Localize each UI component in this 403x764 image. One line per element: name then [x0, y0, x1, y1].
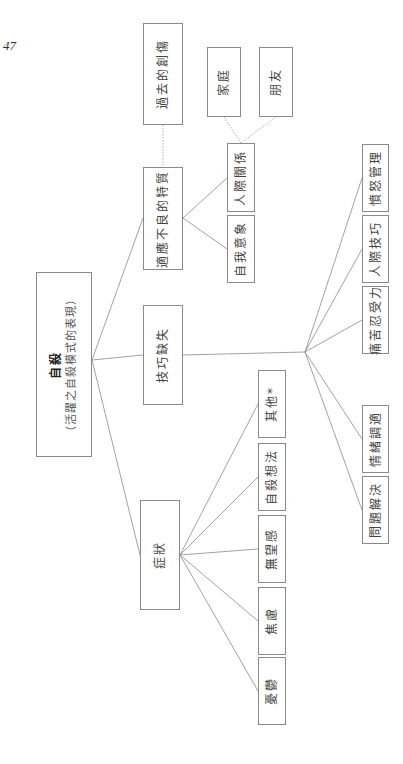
node-label: 症狀	[152, 541, 168, 569]
node-self-image: 自我意象	[227, 215, 255, 283]
root-node-suicide: 自殺 （活躍之自殺模式的表現）	[36, 272, 92, 457]
node-label: 憤怒管理	[368, 150, 384, 206]
node-friends: 朋友	[259, 47, 293, 117]
root-title: 自殺	[48, 293, 64, 437]
node-label: 家庭	[216, 68, 232, 96]
node-label: 適應不良的特質	[155, 170, 171, 268]
node-skill-distress-tolerance: 痛苦忍受力	[362, 286, 389, 354]
node-symptom-hopelessness: 無望感	[258, 515, 286, 583]
node-label: 過去的創傷	[155, 39, 171, 109]
node-label: 朋友	[268, 68, 284, 96]
node-label: 痛苦忍受力	[368, 285, 384, 355]
node-label: 人際技巧	[368, 221, 384, 277]
node-skill-deficits: 技巧缺失	[143, 305, 183, 405]
node-label: 焦慮	[264, 607, 280, 635]
node-symptom-anxiety: 焦慮	[258, 587, 286, 655]
node-symptom-other: 其他*	[258, 370, 286, 438]
node-skill-emotion-regulation: 情緒調適	[362, 405, 389, 473]
node-interpersonal-relations: 人際關係	[227, 143, 255, 212]
node-skill-anger-management: 憤怒管理	[362, 144, 389, 212]
node-past-trauma: 過去的創傷	[143, 23, 183, 125]
node-label: 技巧缺失	[155, 327, 171, 383]
node-label: 情緒調適	[368, 411, 384, 467]
node-label: 人際關係	[233, 150, 249, 206]
node-maladaptive-traits: 適應不良的特質	[143, 167, 183, 270]
node-skill-problem-solving: 問題解決	[362, 476, 389, 544]
node-label: 憂鬱	[264, 677, 280, 705]
root-subtitle: （活躍之自殺模式的表現）	[64, 293, 80, 437]
node-family: 家庭	[207, 47, 241, 117]
node-label: 自殺想法	[264, 449, 280, 505]
node-label: 無望感	[264, 528, 280, 570]
node-label: 自我意象	[233, 221, 249, 277]
node-symptom-suicidal-thoughts: 自殺想法	[258, 443, 286, 511]
node-label: 其他*	[264, 386, 280, 422]
node-label: 問題解決	[368, 482, 384, 538]
node-symptom-depression: 憂鬱	[258, 657, 286, 725]
node-symptoms: 症狀	[140, 500, 180, 610]
node-skill-interpersonal: 人際技巧	[362, 215, 389, 283]
